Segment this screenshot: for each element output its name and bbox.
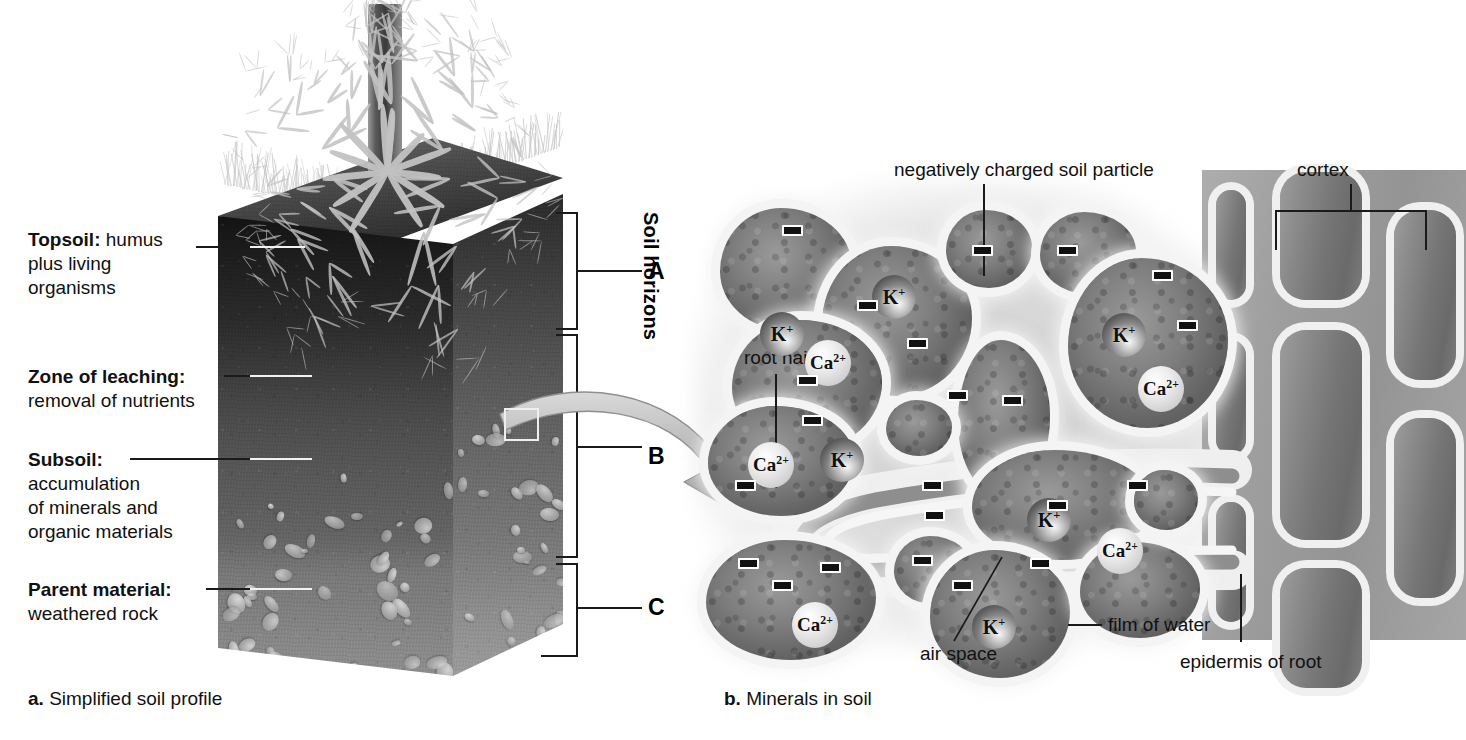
label-topsoil-term: Topsoil: (28, 229, 100, 250)
caption-b: b. Minerals in soil (724, 688, 872, 710)
negative-charge-mark (972, 245, 993, 256)
root-branch (470, 14, 479, 30)
potassium-ion: K+ (760, 312, 804, 356)
potassium-ion: K+ (972, 605, 1016, 649)
label-subsoil-line4: organic materials (28, 520, 173, 544)
root-branch (277, 126, 310, 132)
root-branch (232, 147, 245, 161)
caption-b-text: Minerals in soil (741, 688, 872, 709)
soil-horizons-title: Soil horizons (639, 212, 662, 340)
negative-charge-mark (922, 480, 943, 491)
potassium-ion: K+ (820, 438, 864, 482)
soil-profile-block (218, 112, 563, 687)
label-parent-material: Parent material: weathered rock (28, 578, 172, 626)
root-branch (245, 109, 260, 115)
caption-a-text: Simplified soil profile (44, 688, 222, 709)
leader-leaching-inner (250, 375, 312, 377)
root-branch (474, 104, 498, 114)
negative-charge-mark (952, 580, 973, 591)
root-branch (406, 231, 426, 286)
root-branch (467, 181, 498, 199)
minerals-in-soil-panel: K+K+Ca2+K+Ca2+Ca2+K+K+Ca2+Ca2+K+ (672, 150, 1466, 670)
root-branch (258, 213, 274, 223)
root-branch (258, 234, 281, 242)
negative-charge-mark (797, 375, 818, 386)
label-topsoil-line3: organisms (28, 276, 163, 300)
root-branch (345, 14, 361, 26)
root-branch (505, 116, 517, 122)
ion-layer: K+K+Ca2+K+Ca2+Ca2+K+K+Ca2+Ca2+K+ (672, 150, 1466, 670)
horizon-letter-c: C (648, 594, 665, 621)
negative-charge-mark (1177, 320, 1198, 331)
negative-charge-mark (1030, 558, 1051, 569)
label-leaching-term: Zone of leaching: (28, 366, 185, 387)
root-branch (296, 188, 321, 194)
label-topsoil-line2: plus living (28, 252, 163, 276)
label-subsoil-line3: of minerals and (28, 496, 173, 520)
calcium-ion: Ca2+ (792, 602, 838, 648)
caption-a: a. Simplified soil profile (28, 688, 222, 710)
root-branch (538, 162, 553, 177)
magnified-region-box (504, 408, 539, 441)
root-branch (509, 248, 517, 264)
negative-charge-mark (1152, 270, 1173, 281)
negative-charge-mark (735, 480, 756, 491)
root-branch (280, 270, 289, 291)
root-branch (534, 176, 552, 182)
root-branch (256, 50, 259, 69)
root-branch (295, 82, 304, 116)
negative-charge-mark (782, 225, 803, 236)
root-branch (448, 77, 473, 109)
root-branch (352, 18, 357, 41)
root-branch (451, 113, 476, 133)
root-branch (528, 122, 533, 137)
root-branch (526, 213, 547, 221)
plant-root-system (218, 112, 563, 687)
root-branch (288, 33, 291, 54)
root-branch (306, 316, 311, 333)
root-branch (309, 60, 313, 70)
leader-topsoil-inner (250, 246, 305, 248)
root-branch (432, 355, 433, 376)
negative-charge-mark (912, 555, 933, 566)
label-parent-line2: weathered rock (28, 602, 172, 626)
label-subsoil-term: Subsoil: (28, 449, 103, 470)
root-branch (243, 54, 257, 69)
root-branch (328, 263, 333, 295)
root-branch (493, 288, 509, 306)
root-branch (294, 334, 312, 348)
root-branch (541, 183, 553, 197)
label-leaching: Zone of leaching: removal of nutrients (28, 365, 195, 413)
negative-charge-mark (1002, 395, 1023, 406)
root-branch (462, 358, 480, 384)
root-branch (286, 327, 295, 346)
root-branch (253, 272, 265, 286)
negative-charge-mark (947, 390, 968, 401)
horizon-bracket-a (556, 212, 642, 330)
root-branch (300, 200, 322, 215)
negative-charge-mark (820, 562, 841, 573)
root-branch (296, 109, 324, 117)
figure-root: Topsoil: humus plus living organisms Zon… (0, 0, 1466, 740)
potassium-ion: K+ (872, 275, 916, 319)
negative-charge-mark (1127, 480, 1148, 491)
leader-parent-inner (250, 588, 312, 590)
negative-charge-mark (738, 558, 759, 569)
root-branch (411, 0, 433, 3)
label-subsoil: Subsoil: accumulation of minerals and or… (28, 448, 173, 544)
negative-charge-mark (907, 338, 928, 349)
label-topsoil: Topsoil: humus plus living organisms (28, 228, 163, 300)
root-branch (421, 43, 441, 49)
root-branch (287, 326, 306, 329)
root-branch (479, 197, 498, 226)
label-leaching-line2: removal of nutrients (28, 389, 195, 413)
root-branch (279, 213, 300, 215)
root-branch (536, 241, 542, 265)
root-branch (301, 347, 307, 371)
caption-a-letter: a. (28, 688, 44, 709)
root-branch (545, 204, 560, 219)
calcium-ion: Ca2+ (1097, 528, 1143, 574)
root-branch (455, 357, 479, 360)
root-branch (483, 290, 487, 309)
label-subsoil-line2: accumulation (28, 472, 173, 496)
